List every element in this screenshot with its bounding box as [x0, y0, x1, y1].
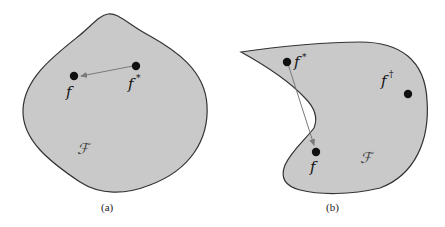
point-f-dagger: [404, 90, 412, 98]
caption-b: (b): [326, 201, 339, 214]
label-f-star-sup: *: [136, 73, 141, 83]
feasible-set-region-b: [241, 42, 427, 194]
feasible-set-region-a: [23, 14, 207, 192]
point-f: [70, 72, 78, 80]
point-f: [312, 148, 320, 156]
label-f-star-sup: *: [302, 52, 307, 62]
panel-b: f * f f † ℱ (b): [241, 42, 427, 214]
figure-canvas: f f * ℱ (a) f * f f † ℱ (b): [0, 0, 445, 227]
point-f-star: [132, 62, 140, 70]
point-f-star: [283, 58, 291, 66]
panel-a: f f * ℱ (a): [23, 14, 207, 214]
label-f-dagger-sup: †: [389, 69, 394, 79]
caption-a: (a): [101, 201, 114, 214]
